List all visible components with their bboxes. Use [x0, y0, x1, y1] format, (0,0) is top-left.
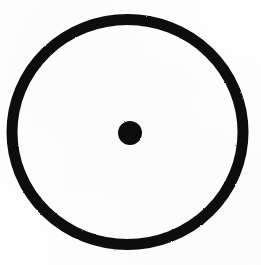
center-dot — [118, 121, 142, 145]
symbol-canvas — [0, 0, 261, 265]
circled-dot-icon — [0, 0, 261, 265]
